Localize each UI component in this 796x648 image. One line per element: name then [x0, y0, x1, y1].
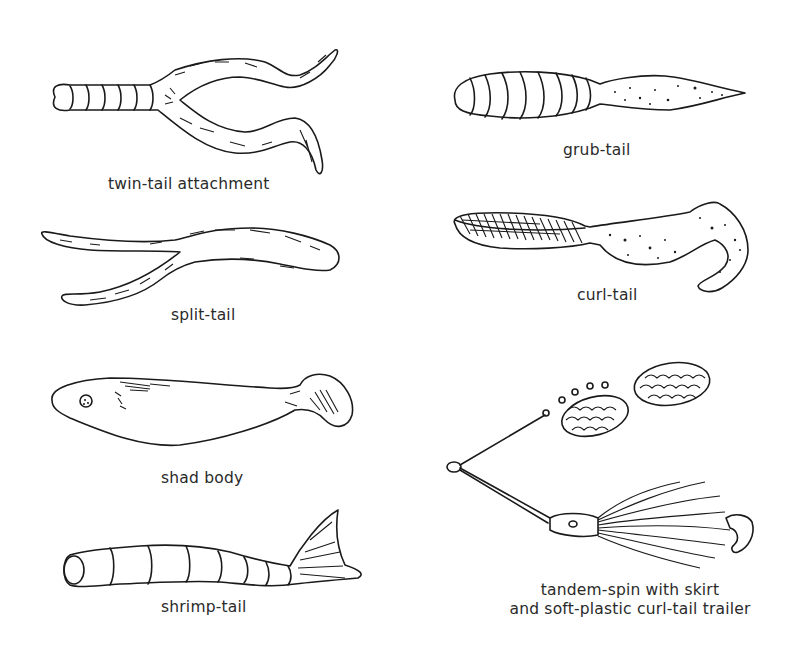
label-tandem-spin: tandem-spin with skirt and soft-plastic … [480, 581, 780, 620]
split-tail-drawing [42, 228, 339, 305]
label-curl-tail: curl-tail [577, 286, 638, 305]
curl-tail-drawing [454, 202, 748, 291]
label-grub-tail: grub-tail [563, 141, 630, 160]
tandem-spin-drawing [447, 358, 753, 568]
label-shrimp-tail: shrimp-tail [161, 598, 247, 617]
label-tandem-spin-line1: tandem-spin with skirt [480, 581, 780, 600]
shad-body-drawing [52, 374, 353, 445]
label-twin-tail: twin-tail attachment [108, 175, 270, 194]
shrimp-tail-drawing [64, 510, 361, 587]
label-shad-body: shad body [161, 469, 243, 488]
label-tandem-spin-line2: and soft-plastic curl-tail trailer [480, 600, 780, 619]
grub-tail-drawing [454, 72, 745, 119]
twin-tail-drawing [53, 50, 337, 174]
lure-diagram: twin-tail attachment grub-tail split-tai… [0, 0, 796, 648]
label-split-tail: split-tail [171, 306, 235, 325]
